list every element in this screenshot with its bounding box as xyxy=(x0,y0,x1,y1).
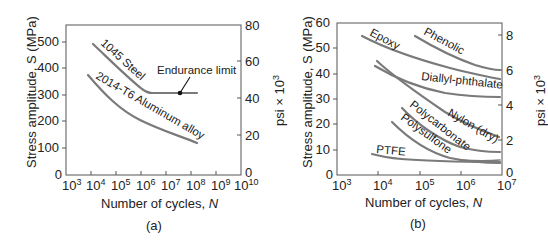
chart-a-y2tick: 80 xyxy=(245,18,259,33)
chart-a-ytick: 500 xyxy=(37,34,59,49)
chart-a-y2-axis-label: psi × 103 xyxy=(271,75,287,126)
chart-b-ytick: 40 xyxy=(316,66,330,81)
chart-b-ytick: 30 xyxy=(316,91,330,106)
chart-a-y-ticks: 500 400 300 200 100 0 xyxy=(37,34,66,182)
chart-a-xtick: 105 xyxy=(111,177,130,193)
chart-b-y-axis-label: Stress amplitude, S (MPa) xyxy=(300,16,315,168)
chart-b-panel-label: (b) xyxy=(410,216,426,231)
endurance-limit-pointer xyxy=(180,77,190,93)
chart-b-ytick: 60 xyxy=(316,15,330,30)
chart-b-ytick: 50 xyxy=(316,40,330,55)
chart-a-x-ticks: 103 104 105 106 107 108 109 1010 xyxy=(62,171,258,193)
chart-a-xtick: 1010 xyxy=(234,177,258,193)
figure: 500 400 300 200 100 0 80 60 40 20 0 103 xyxy=(0,0,548,241)
chart-a-xtick: 107 xyxy=(161,177,180,193)
chart-a-ytick: 0 xyxy=(55,167,62,182)
chart-a-xtick: 108 xyxy=(186,177,205,193)
chart-b-plot-frame xyxy=(337,23,502,175)
chart-b-ytick: 10 xyxy=(316,142,330,157)
chart-b-ytick: 20 xyxy=(316,116,330,131)
chart-a-xtick: 106 xyxy=(136,177,155,193)
chart-b-xtick: 106 xyxy=(456,177,475,193)
chart-b: 60 50 40 30 20 10 0 8 6 4 2 0 103 104 xyxy=(300,15,548,231)
chart-a-y2-ticks: 80 60 40 20 0 xyxy=(237,18,259,180)
annotation-endurance-limit: Endurance limit xyxy=(157,64,237,76)
chart-a-x-axis-label: Number of cycles, N xyxy=(101,196,219,211)
chart-b-xtick: 105 xyxy=(415,177,434,193)
chart-a-y2tick: 20 xyxy=(245,128,259,143)
chart-a: 500 400 300 200 100 0 80 60 40 20 0 103 xyxy=(24,16,287,233)
curve-ptfe-tail xyxy=(460,160,500,161)
chart-a-ytick: 300 xyxy=(37,87,59,102)
chart-b-y2tick: 6 xyxy=(506,63,513,78)
chart-a-xtick: 104 xyxy=(86,177,105,193)
chart-b-y2tick: 2 xyxy=(506,133,513,148)
label-2014-t6-aluminum: 2014-T6 Aluminum alloy xyxy=(94,69,207,141)
chart-b-y2-axis-label: psi × 103 xyxy=(532,75,548,126)
chart-a-xtick: 109 xyxy=(211,177,230,193)
chart-b-y-ticks: 60 50 40 30 20 10 0 xyxy=(316,15,337,182)
chart-b-y2tick: 8 xyxy=(506,28,513,43)
chart-a-ytick: 200 xyxy=(37,113,59,128)
chart-a-ytick: 400 xyxy=(37,60,59,75)
chart-b-xtick: 104 xyxy=(373,177,392,193)
chart-a-y2tick: 40 xyxy=(245,91,259,106)
label-diallyl-phthalate: Diallyl-phthalate xyxy=(421,70,504,90)
chart-b-x-ticks: 103 104 105 106 107 xyxy=(332,171,516,193)
chart-b-x-axis-label: Number of cycles, N xyxy=(365,195,483,210)
chart-a-ytick: 100 xyxy=(37,140,59,155)
label-epoxy: Epoxy xyxy=(368,26,402,52)
chart-a-xtick: 103 xyxy=(62,177,81,193)
chart-a-y-axis-label: Stress amplitude, S (MPa) xyxy=(24,16,39,168)
chart-a-panel-label: (a) xyxy=(146,218,162,233)
chart-b-y2tick: 4 xyxy=(506,98,513,113)
chart-b-xtick: 103 xyxy=(332,177,351,193)
chart-b-xtick: 107 xyxy=(497,177,516,193)
chart-a-y2tick: 60 xyxy=(245,54,259,69)
chart-b-y2-ticks: 8 6 4 2 0 xyxy=(498,28,513,180)
